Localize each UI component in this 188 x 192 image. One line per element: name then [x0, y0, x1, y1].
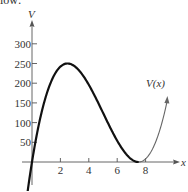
y-tick-label: 50: [20, 136, 32, 148]
x-tick-label: 2: [58, 164, 64, 176]
x-tick-label: 6: [114, 164, 120, 176]
volume-chart: 246850100150200250300 xVV(x): [0, 0, 188, 191]
ticks: 246850100150200250300: [15, 38, 149, 176]
curve-main: [27, 64, 138, 192]
y-tick-label: 300: [15, 38, 32, 50]
y-tick-label: 200: [15, 77, 32, 89]
curve-tail: [139, 102, 167, 162]
axes: [22, 20, 180, 185]
curve-label: V(x): [146, 77, 165, 90]
y-axis-label: V: [28, 8, 36, 20]
y-tick-label: 150: [15, 97, 32, 109]
y-axis-arrow-icon: [30, 20, 35, 27]
curve-up-arrow-icon: [164, 96, 169, 104]
y-tick-label: 250: [15, 58, 32, 70]
x-tick-label: 8: [143, 164, 149, 176]
y-tick-label: 100: [15, 117, 32, 129]
x-tick-label: 4: [86, 164, 92, 176]
labels: xVV(x): [28, 8, 186, 168]
x-axis-label: x: [180, 156, 186, 168]
x-axis-arrow-icon: [173, 160, 180, 165]
